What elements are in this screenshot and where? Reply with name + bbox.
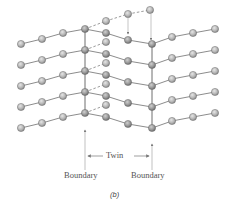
- figure-caption: (b): [110, 190, 119, 199]
- atom: [168, 33, 175, 40]
- atom: [81, 46, 88, 53]
- atom: [59, 113, 66, 120]
- atom: [168, 96, 175, 103]
- atom: [211, 109, 218, 116]
- atoms-layer: [17, 6, 218, 131]
- atom: [124, 99, 131, 106]
- atom: [124, 10, 131, 17]
- atom: [148, 61, 155, 68]
- atom: [17, 82, 24, 89]
- atom: [17, 61, 24, 68]
- atom: [102, 38, 109, 45]
- atom: [148, 40, 155, 47]
- atom: [148, 103, 155, 110]
- atom: [211, 46, 218, 53]
- atom: [168, 117, 175, 124]
- atom: [102, 50, 109, 57]
- twin-label: Twin: [106, 150, 123, 160]
- atom: [81, 88, 88, 95]
- atom: [211, 25, 218, 32]
- atom: [102, 17, 109, 24]
- atom: [38, 98, 45, 105]
- atom: [189, 92, 196, 99]
- atom: [146, 6, 153, 13]
- atom: [102, 71, 109, 78]
- atom: [211, 67, 218, 74]
- atom: [102, 29, 109, 36]
- atom: [102, 80, 109, 87]
- atom: [59, 92, 66, 99]
- atom: [124, 57, 131, 64]
- atom: [59, 71, 66, 78]
- atom: [168, 75, 175, 82]
- twin-boundary-diagram: [0, 0, 233, 205]
- atom: [102, 59, 109, 66]
- atom: [38, 35, 45, 42]
- atom: [124, 36, 131, 43]
- atom: [59, 50, 66, 57]
- atom: [17, 124, 24, 131]
- atom: [211, 88, 218, 95]
- atom: [81, 67, 88, 74]
- atom: [189, 113, 196, 120]
- atom: [81, 25, 88, 32]
- atom: [124, 120, 131, 127]
- atom: [148, 124, 155, 131]
- atom: [38, 119, 45, 126]
- atom: [17, 40, 24, 47]
- atom: [59, 29, 66, 36]
- atom: [189, 71, 196, 78]
- atom: [17, 103, 24, 110]
- atom: [189, 50, 196, 57]
- boundary-label-right: Boundary: [131, 170, 165, 180]
- atom: [102, 92, 109, 99]
- atom: [81, 109, 88, 116]
- atom: [124, 78, 131, 85]
- atom: [38, 56, 45, 63]
- atom: [38, 77, 45, 84]
- boundary-label-left: Boundary: [64, 170, 98, 180]
- atom: [168, 54, 175, 61]
- atom: [102, 101, 109, 108]
- bonds-layer: [21, 10, 215, 128]
- atom: [148, 82, 155, 89]
- atom: [189, 29, 196, 36]
- atom: [102, 113, 109, 120]
